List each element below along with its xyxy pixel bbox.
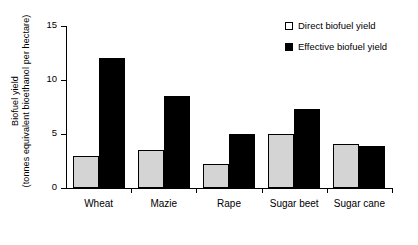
x-tick-1 (196, 188, 197, 193)
x-tick-4 (392, 188, 393, 193)
y-tick-0: 0 (61, 188, 66, 189)
filled-square-icon (285, 43, 293, 51)
legend-label-effective: Effective biofuel yield (298, 41, 387, 52)
bar-sugar-beet-effective (294, 109, 320, 188)
bar-group-rape (203, 26, 255, 188)
bar-mazie-direct (138, 150, 164, 188)
x-tick-2 (262, 188, 263, 193)
y-tick-label-0: 0 (52, 181, 57, 192)
y-tick-label-10: 10 (46, 73, 57, 84)
bar-sugar-beet-direct (268, 134, 294, 188)
bar-group-wheat (73, 26, 125, 188)
bar-rape-effective (229, 134, 255, 188)
bar-mazie-effective (164, 96, 190, 188)
x-tick-0 (131, 188, 132, 193)
x-tick-3 (327, 188, 328, 193)
y-axis-title-line-1: Biofuel yield (10, 76, 21, 126)
x-axis-label-wheat: Wheat (84, 198, 113, 209)
biofuel-yield-bar-chart: Biofuel yield (tonnes equivalent bioetha… (0, 0, 418, 245)
bar-group-mazie (138, 26, 190, 188)
bar-sugar-cane-direct (333, 144, 359, 188)
y-tick-label-15: 15 (46, 19, 57, 30)
y-tick-label-5: 5 (52, 127, 57, 138)
bar-wheat-direct (73, 156, 99, 188)
y-axis-title-line-2: (tonnes equivalent bioethanol per hectar… (21, 15, 32, 188)
x-axis-label-mazie: Mazie (150, 198, 177, 209)
x-axis-label-sugar-beet: Sugar beet (270, 198, 319, 209)
x-axis-label-sugar-cane: Sugar cane (334, 198, 385, 209)
y-axis-title: Biofuel yield (tonnes equivalent bioetha… (4, 6, 38, 196)
legend-item-direct: Direct biofuel yield (285, 20, 387, 31)
chart-legend: Direct biofuel yieldEffective biofuel yi… (285, 20, 387, 52)
x-axis-line (66, 188, 393, 189)
x-axis-label-rape: Rape (217, 198, 241, 209)
bar-sugar-cane-effective (359, 146, 385, 188)
open-square-icon (285, 22, 293, 30)
bar-rape-direct (203, 164, 229, 188)
bar-wheat-effective (99, 58, 125, 188)
legend-label-direct: Direct biofuel yield (298, 20, 376, 31)
legend-item-effective: Effective biofuel yield (285, 41, 387, 52)
